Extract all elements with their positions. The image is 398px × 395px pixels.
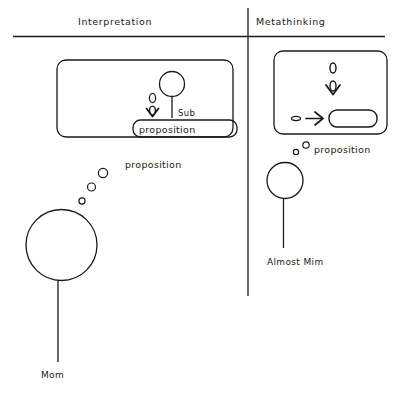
left-sub-label: Sub: [178, 108, 195, 118]
right-thought-bubble-large: [303, 142, 309, 148]
left-proposition-caption: proposition: [125, 159, 181, 170]
heading-metathinking: Metathinking: [256, 16, 325, 27]
right-empty-pill: [329, 110, 377, 127]
left-thought-bubble-small: [79, 198, 85, 204]
left-person-head-circle: [26, 210, 97, 281]
right-proposition-caption: proposition: [314, 144, 370, 155]
heading-interpretation: Interpretation: [78, 16, 152, 27]
right-thought-bubble-small: [293, 149, 298, 154]
left-proposition-pill-label: proposition: [139, 124, 195, 135]
left-thought-bubble-medium: [88, 183, 96, 191]
right-small-oval-icon: [292, 116, 301, 120]
left-thought-bubble-large: [98, 168, 107, 177]
left-zero-oval-icon: [149, 93, 155, 102]
right-person-name-label: Almost Mim: [267, 257, 324, 267]
left-person-name-label: Mom: [41, 370, 64, 380]
left-inner-head-circle: [160, 72, 185, 97]
left-down-arrow-icon: [147, 106, 159, 116]
right-upper-oval-icon: [330, 63, 336, 73]
right-down-arrow-icon: [326, 81, 340, 95]
comic-diagram: Interpretation Metathinking Sub proposit…: [0, 0, 398, 395]
diagram-canvas: Interpretation Metathinking Sub proposit…: [0, 0, 398, 395]
right-person-head-circle: [267, 163, 303, 199]
right-arrow-icon: [306, 112, 323, 125]
